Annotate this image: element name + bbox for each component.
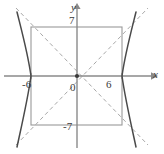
x-axis-label: x (153, 69, 158, 80)
hyperbola-figure: y x 7 -7 -6 6 0 (0, 0, 164, 154)
x-tick-label-minus-6: -6 (22, 79, 31, 90)
origin-label: 0 (70, 82, 76, 93)
origin-point (75, 74, 79, 78)
x-tick-label-6: 6 (106, 79, 112, 90)
y-tick-label-minus-7: -7 (63, 121, 72, 132)
y-tick-label-7: 7 (69, 15, 75, 26)
graph-canvas (0, 0, 164, 154)
y-axis-label: y (71, 2, 76, 13)
